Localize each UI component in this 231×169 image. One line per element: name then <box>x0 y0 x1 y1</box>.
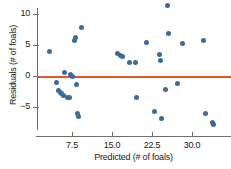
data-point <box>144 40 149 45</box>
x-tick-label-3: 30.0 <box>172 140 212 150</box>
data-point <box>165 3 170 8</box>
data-point <box>163 87 168 92</box>
data-point <box>203 111 208 116</box>
residual-scatter-plot: 1050−5 7.515.022.530.0 Residuals (# of f… <box>0 0 231 169</box>
x-tick-3 <box>192 132 193 137</box>
data-point <box>152 109 157 114</box>
plot-area: 1050−5 7.515.022.530.0 Residuals (# of f… <box>0 0 231 169</box>
data-point <box>211 122 216 127</box>
data-point <box>175 81 180 86</box>
data-point <box>74 82 79 87</box>
data-point <box>127 60 132 65</box>
data-point <box>166 31 171 36</box>
data-point <box>70 74 75 79</box>
data-point <box>134 95 139 100</box>
x-tick-label-0: 7.5 <box>52 140 92 150</box>
y-axis-title: Residuals (# of foals) <box>8 10 18 120</box>
y-tick-0 <box>33 14 39 15</box>
data-point <box>67 95 72 100</box>
data-point <box>133 60 138 65</box>
x-tick-1 <box>112 132 113 137</box>
y-axis-line <box>37 8 38 130</box>
data-point <box>54 80 59 85</box>
data-point <box>201 38 206 43</box>
zero-reference-line <box>38 76 231 78</box>
y-tick-1 <box>33 45 39 46</box>
x-tick-0 <box>72 132 73 137</box>
y-tick-2 <box>33 76 39 77</box>
data-point <box>180 41 185 46</box>
data-point <box>158 58 163 63</box>
data-point <box>73 35 78 40</box>
x-tick-label-2: 22.5 <box>132 140 172 150</box>
x-tick-2 <box>152 132 153 137</box>
x-axis-line <box>36 136 231 137</box>
y-tick-3 <box>33 107 39 108</box>
x-axis-title: Predicted (# of foals) <box>36 152 231 162</box>
data-point <box>62 70 67 75</box>
data-point <box>79 25 84 30</box>
data-point <box>120 54 125 59</box>
data-point <box>159 116 164 121</box>
data-point <box>157 52 162 57</box>
data-point <box>76 114 81 119</box>
data-point <box>47 49 52 54</box>
x-tick-label-1: 15.0 <box>92 140 132 150</box>
